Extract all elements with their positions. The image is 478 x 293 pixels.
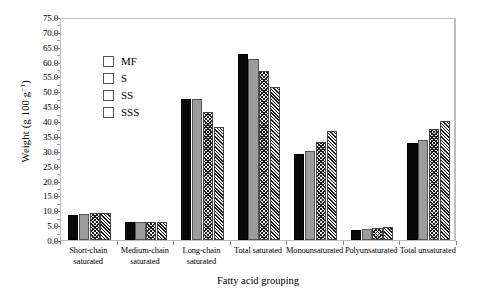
bar-ss-2 bbox=[146, 222, 156, 240]
bar-sss-2 bbox=[157, 222, 167, 240]
bar-s-3 bbox=[192, 99, 202, 240]
legend-item-sss: SSS bbox=[103, 104, 183, 121]
x-axis-tick-mark bbox=[117, 241, 118, 245]
bar-sss-1 bbox=[100, 213, 110, 240]
x-axis-tick-label-line: saturated bbox=[56, 257, 121, 268]
bar-ss-7 bbox=[429, 129, 439, 241]
legend-item-ss: SS bbox=[103, 87, 183, 104]
bar-s-6 bbox=[362, 229, 372, 240]
y-axis-tick-label: 10.0 bbox=[24, 207, 58, 216]
x-axis-tick-label-line: Total saturated bbox=[226, 246, 291, 257]
bar-ss-4 bbox=[259, 71, 269, 240]
bar-mf-6 bbox=[351, 230, 361, 240]
legend-label: SSS bbox=[121, 107, 139, 118]
bar-sss-3 bbox=[214, 127, 224, 240]
y-axis-tick-label: 20.0 bbox=[24, 177, 58, 186]
bar-ss-5 bbox=[316, 142, 326, 240]
bar-group bbox=[181, 19, 224, 240]
bar-sss-4 bbox=[270, 87, 280, 240]
legend-swatch-icon bbox=[103, 73, 114, 84]
bar-group bbox=[294, 19, 337, 240]
x-axis-tick-label: Polyunsaturated bbox=[339, 246, 404, 257]
bar-mf-1 bbox=[68, 215, 78, 240]
legend-label: MF bbox=[121, 56, 137, 67]
legend-item-s: S bbox=[103, 70, 183, 87]
legend: MFSSSSSS bbox=[103, 53, 183, 121]
y-axis-tick-label: 15.0 bbox=[24, 192, 58, 201]
x-axis-tick-label: Monounsaturated bbox=[282, 246, 347, 257]
y-axis-tick-label: 55.0 bbox=[24, 73, 58, 82]
y-axis-tick-label: 70.0 bbox=[24, 28, 58, 37]
bar-mf-7 bbox=[407, 143, 417, 240]
x-axis-title: Fatty acid grouping bbox=[60, 275, 456, 286]
bar-ss-1 bbox=[90, 213, 100, 240]
bar-s-5 bbox=[305, 151, 315, 240]
x-axis-tick-label-line: Monounsaturated bbox=[282, 246, 347, 257]
x-axis-tick-mark bbox=[173, 241, 174, 245]
bar-s-2 bbox=[135, 222, 145, 240]
legend-swatch-icon bbox=[103, 107, 114, 118]
bar-chart: Weight (g 100 g−1) 0.05.010.015.020.025.… bbox=[0, 0, 478, 293]
x-axis-tick-labels: Short-chainsaturatedMedium-chainsaturate… bbox=[60, 246, 456, 278]
y-axis-tick-label: 35.0 bbox=[24, 132, 58, 141]
y-axis-tick-label: 0.0 bbox=[24, 237, 58, 246]
plot-frame bbox=[60, 18, 456, 241]
x-axis-tick-mark bbox=[343, 241, 344, 245]
x-axis-tick-label-line: saturated bbox=[169, 257, 234, 268]
x-axis-tick-mark bbox=[286, 241, 287, 245]
bar-mf-4 bbox=[238, 54, 248, 240]
bar-group bbox=[238, 19, 281, 240]
bar-s-1 bbox=[79, 214, 89, 240]
x-axis-tick-label: Short-chainsaturated bbox=[56, 246, 121, 267]
bar-mf-2 bbox=[125, 222, 135, 240]
legend-label: SS bbox=[121, 90, 133, 101]
x-axis-tick-marks bbox=[60, 241, 456, 245]
x-axis-tick-label-line: Total unsaturated bbox=[395, 246, 460, 257]
bar-ss-3 bbox=[203, 112, 213, 240]
legend-item-mf: MF bbox=[103, 53, 183, 70]
x-axis-tick-mark bbox=[456, 241, 457, 245]
bar-group bbox=[351, 19, 394, 240]
x-axis-tick-label: Long-chainsaturated bbox=[169, 246, 234, 267]
bar-s-4 bbox=[248, 59, 258, 240]
bar-sss-6 bbox=[383, 227, 393, 240]
bar-mf-5 bbox=[294, 154, 304, 240]
x-axis-tick-label-line: Medium-chain bbox=[113, 246, 178, 257]
x-axis-tick-mark bbox=[230, 241, 231, 245]
x-axis-tick-label-line: Long-chain bbox=[169, 246, 234, 257]
bar-ss-6 bbox=[372, 228, 382, 240]
x-axis-tick-mark bbox=[399, 241, 400, 245]
y-axis-tick-label: 45.0 bbox=[24, 103, 58, 112]
y-axis-tick-label: 75.0 bbox=[24, 14, 58, 23]
x-axis-tick-mark bbox=[60, 241, 61, 245]
y-axis-tick-label: 65.0 bbox=[24, 43, 58, 52]
bar-sss-5 bbox=[327, 131, 337, 240]
legend-swatch-icon bbox=[103, 56, 114, 67]
y-axis-tick-label: 60.0 bbox=[24, 58, 58, 67]
x-axis-tick-label-line: saturated bbox=[113, 257, 178, 268]
x-axis-tick-label: Total saturated bbox=[226, 246, 291, 257]
y-axis-tick-label: 40.0 bbox=[24, 118, 58, 127]
x-axis-tick-label: Total unsaturated bbox=[395, 246, 460, 257]
bar-sss-7 bbox=[440, 121, 450, 240]
bar-s-7 bbox=[418, 140, 428, 240]
x-axis-tick-label: Medium-chainsaturated bbox=[113, 246, 178, 267]
x-axis-tick-label-line: Short-chain bbox=[56, 246, 121, 257]
y-axis-tick-labels: 0.05.010.015.020.025.030.035.040.045.050… bbox=[24, 0, 58, 293]
y-axis-tick-label: 50.0 bbox=[24, 88, 58, 97]
bar-group bbox=[407, 19, 450, 240]
legend-label: S bbox=[121, 73, 127, 84]
y-axis-tick-label: 25.0 bbox=[24, 162, 58, 171]
x-axis-tick-label-line: Polyunsaturated bbox=[339, 246, 404, 257]
y-axis-tick-label: 5.0 bbox=[24, 222, 58, 231]
legend-swatch-icon bbox=[103, 90, 114, 101]
y-axis-tick-label: 30.0 bbox=[24, 147, 58, 156]
